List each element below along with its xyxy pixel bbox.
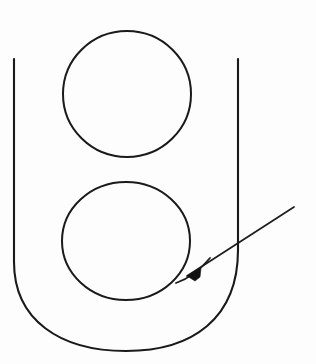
background-plate <box>0 0 316 364</box>
line-drawing-svg <box>0 0 316 364</box>
figure-canvas <box>0 0 316 364</box>
